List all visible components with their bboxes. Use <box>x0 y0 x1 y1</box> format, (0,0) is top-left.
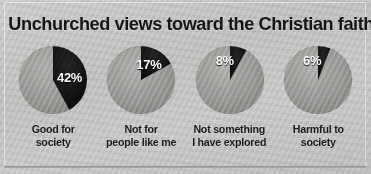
pie-caption-line-1: Not something <box>193 123 267 136</box>
pie-percent-label: 42% <box>57 70 82 85</box>
pie-caption: Not something I have explored <box>193 123 267 149</box>
pie-graphic: 8% <box>194 44 266 116</box>
pie-caption-line-1: Not for <box>106 123 176 136</box>
pie-graphic: 6% <box>282 44 354 116</box>
pie-percent-label: 6% <box>303 53 321 68</box>
pie-chart-row: 42% Good for society <box>9 44 362 164</box>
frame-rule-left <box>4 3 5 168</box>
pie-caption-line-1: Harmful to <box>293 123 344 136</box>
infographic-clipping: Unchurched views toward the Christian fa… <box>0 0 371 174</box>
pie-percent-label: 17% <box>136 57 161 72</box>
pie-graphic: 42% <box>17 44 89 116</box>
pie-caption-line-1: Good for <box>31 123 74 136</box>
pie-chart-harmful-to-society: 6% Harmful to society <box>274 44 362 149</box>
pie-caption: Harmful to society <box>293 123 344 149</box>
pie-chart-good-for-society: 42% Good for society <box>9 44 97 149</box>
pie-chart-not-something-i-have-explored: 8% Not something I have explored <box>186 44 274 149</box>
pie-caption: Good for society <box>31 123 74 149</box>
frame-rule-bottom <box>4 166 366 168</box>
pie-percent-label: 8% <box>216 53 234 68</box>
pie-caption-line-2: society <box>31 136 74 149</box>
pie-caption-line-2: society <box>293 136 344 149</box>
chart-title: Unchurched views toward the Christian fa… <box>8 13 362 35</box>
pie-graphic: 17% <box>105 44 177 116</box>
pie-chart-not-for-people-like-me: 17% Not for people like me <box>97 44 185 149</box>
pie-caption: Not for people like me <box>106 123 176 149</box>
pie-caption-line-2: I have explored <box>193 136 267 149</box>
pie-caption-line-2: people like me <box>106 136 176 149</box>
frame-rule-top <box>4 2 366 3</box>
pie-svg-1 <box>105 44 177 116</box>
